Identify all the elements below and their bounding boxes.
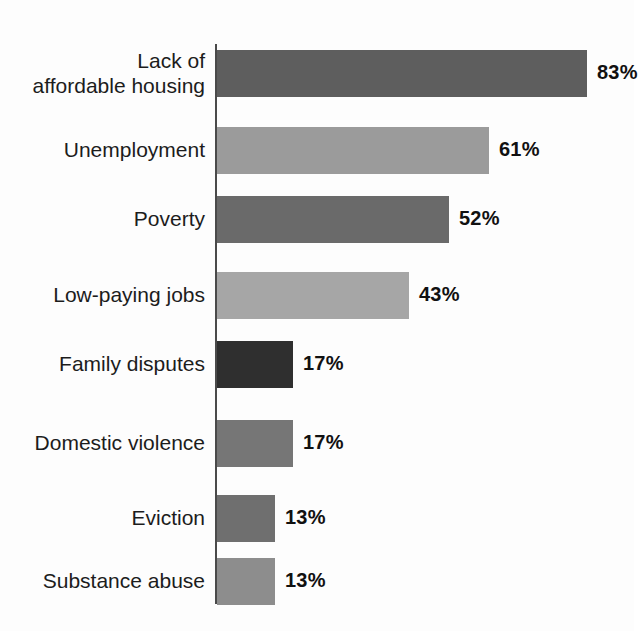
category-label: Eviction (0, 505, 205, 530)
bar[interactable] (217, 272, 409, 319)
value-label: 13% (285, 569, 326, 592)
category-label-line: Domestic violence (0, 430, 205, 455)
bar[interactable] (217, 341, 293, 388)
category-label-line: Low-paying jobs (0, 282, 205, 307)
category-label: Unemployment (0, 137, 205, 162)
category-label-line: Unemployment (0, 137, 205, 162)
category-label-line: Family disputes (0, 351, 205, 376)
bar[interactable] (217, 196, 449, 243)
category-label: Poverty (0, 206, 205, 231)
bar[interactable] (217, 558, 275, 605)
bar[interactable] (217, 127, 489, 174)
category-label: Domestic violence (0, 430, 205, 455)
value-label: 83% (597, 61, 638, 84)
value-label: 17% (303, 431, 344, 454)
value-label: 61% (499, 138, 540, 161)
category-label-line: Poverty (0, 206, 205, 231)
category-label-line: Lack of (0, 48, 205, 73)
bar[interactable] (217, 420, 293, 467)
value-label: 43% (419, 283, 460, 306)
value-label: 52% (459, 207, 500, 230)
category-label: Substance abuse (0, 568, 205, 593)
bar[interactable] (217, 495, 275, 542)
category-label: Low-paying jobs (0, 282, 205, 307)
bar[interactable] (217, 50, 587, 97)
category-label: Lack ofaffordable housing (0, 48, 205, 98)
category-label: Family disputes (0, 351, 205, 376)
category-label-line: Substance abuse (0, 568, 205, 593)
value-label: 13% (285, 506, 326, 529)
value-label: 17% (303, 352, 344, 375)
category-label-line: Eviction (0, 505, 205, 530)
category-label-line: affordable housing (0, 73, 205, 98)
